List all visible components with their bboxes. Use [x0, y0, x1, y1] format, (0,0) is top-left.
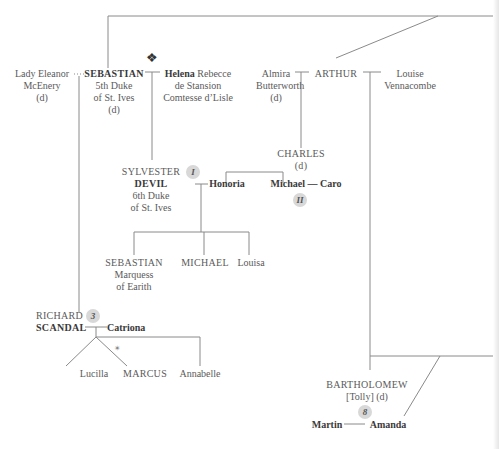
person-name: Helena	[165, 68, 195, 79]
title-line: 6th Duke	[114, 190, 188, 202]
generation-badge: 3	[86, 309, 100, 323]
status-note: (d)	[276, 160, 326, 172]
person-name: MICHAEL	[178, 257, 232, 269]
person-sylvester-devil: SYLVESTER DEVIL 6th Duke of St. Ives	[114, 166, 188, 214]
status-note: (d)	[256, 92, 296, 104]
person-name: Annabelle	[175, 368, 225, 380]
person-name: Catriona	[107, 322, 153, 334]
person-name: SYLVESTER	[114, 166, 188, 178]
title-line: Comtesse d’Lisle	[160, 92, 236, 104]
name-line: Louise	[380, 68, 440, 80]
title-line: 5th Duke	[84, 80, 144, 92]
person-name: SEBASTIAN	[84, 68, 144, 80]
person-surname: DEVIL	[114, 178, 188, 190]
generation-badge: I	[186, 165, 200, 179]
person-name: CHARLES	[276, 148, 326, 160]
person-name: SEBASTIAN	[100, 257, 168, 269]
person-name: RICHARD	[36, 310, 86, 322]
person-name: Martin	[310, 419, 344, 431]
couple-michael-caro: Michael — Caro	[258, 178, 354, 190]
person-name: Michael	[271, 178, 305, 189]
person-name: Caro	[320, 178, 341, 189]
person-surname: SCANDAL	[36, 322, 86, 334]
ornament-icon: ❖	[146, 51, 158, 64]
person-name: Lucilla	[76, 368, 112, 380]
person-martin: Martin	[310, 419, 344, 431]
person-name: Louisa	[234, 257, 268, 269]
generation-badge: II	[293, 193, 307, 207]
marriage-dash: —	[307, 178, 317, 189]
person-louise: Louise Vennacombe	[380, 68, 440, 92]
title-line: Marquess	[100, 269, 168, 281]
person-honoria: Honoria	[206, 178, 248, 190]
person-helena: Helena Rebecce de Stansion Comtesse d’Li…	[160, 68, 236, 104]
title-line: of Earith	[100, 281, 168, 293]
twins-star-icon: ✴	[114, 345, 121, 353]
title-line: of St. Ives	[84, 92, 144, 104]
person-charles: CHARLES (d)	[276, 148, 326, 172]
name-line: Lady Eleanor	[10, 68, 74, 80]
person-lady-eleanor: Lady Eleanor McEnery (d)	[10, 68, 74, 104]
person-amanda: Amanda	[366, 419, 410, 431]
status-note: (d)	[84, 104, 144, 116]
name-line: Vennacombe	[380, 80, 440, 92]
person-name: MARCUS	[121, 368, 169, 380]
person-sebastian-marquess: SEBASTIAN Marquess of Earith	[100, 257, 168, 293]
family-tree-diagram: ❖ Lady Eleanor McEnery (d) SEBASTIAN 5th…	[0, 0, 499, 449]
title-line: of St. Ives	[114, 202, 188, 214]
person-sebastian-5th-duke: SEBASTIAN 5th Duke of St. Ives (d)	[84, 68, 144, 116]
person-annabelle: Annabelle	[175, 368, 225, 380]
person-lucilla: Lucilla	[76, 368, 112, 380]
person-louisa: Louisa	[234, 257, 268, 269]
person-bartholomew: BARTHOLOMEW [Tolly] (d)	[324, 379, 410, 403]
person-richard-scandal: RICHARD SCANDAL	[36, 310, 86, 334]
person-name: ARTHUR	[309, 68, 363, 80]
person-catriona: Catriona	[107, 322, 153, 334]
generation-badge: 8	[358, 405, 372, 419]
page-edge-shadow	[493, 0, 499, 449]
person-name: Honoria	[206, 178, 248, 190]
person-marcus: MARCUS	[121, 368, 169, 380]
person-name: Amanda	[366, 419, 410, 431]
name-line: Butterworth	[256, 80, 296, 92]
status-note: (d)	[10, 92, 74, 104]
person-michael: MICHAEL	[178, 257, 232, 269]
person-arthur: ARTHUR	[309, 68, 363, 80]
person-name: BARTHOLOMEW	[324, 379, 410, 391]
name-line: Rebecce	[197, 68, 231, 79]
status-note: [Tolly] (d)	[324, 391, 410, 403]
name-line: Almira	[256, 68, 296, 80]
name-line: McEnery	[10, 80, 74, 92]
person-almira: Almira Butterworth (d)	[256, 68, 296, 104]
name-line: de Stansion	[160, 80, 236, 92]
